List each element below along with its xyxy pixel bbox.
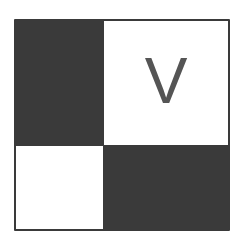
cell-label: V	[104, 49, 228, 113]
cell-bottom-left	[16, 146, 103, 229]
cell-bottom-right	[103, 146, 228, 229]
cell-top-right: V	[103, 21, 228, 146]
cell-top-left	[16, 21, 103, 146]
quadrant-grid: V	[14, 19, 230, 231]
